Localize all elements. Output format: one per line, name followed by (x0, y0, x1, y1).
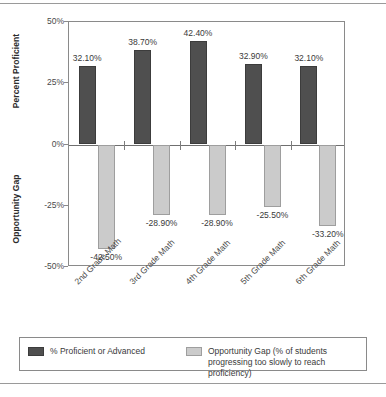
category-tick (180, 141, 181, 150)
y-tick-label: -50% (18, 261, 64, 271)
y-axis-title-top: Percent Proficient (11, 31, 21, 111)
page-rule-bottom (0, 383, 386, 384)
category-tick (235, 141, 236, 150)
bar-value-label: -25.50% (257, 210, 289, 220)
bar-value-label: 38.70% (128, 37, 157, 47)
legend-label-opportunity-gap: Opportunity Gap (% of students progressi… (208, 346, 366, 379)
bar-opportunity-gap (209, 145, 226, 216)
bar-value-label: -33.20% (312, 229, 344, 239)
bar-proficient (79, 66, 96, 145)
chart-legend: % Proficient or Advanced Opportunity Gap… (19, 337, 367, 371)
bar-proficient (245, 64, 262, 145)
y-tick-label: -25% (18, 200, 64, 210)
bar-value-label: 32.10% (73, 53, 102, 63)
category-tick (124, 141, 125, 150)
bar-proficient (190, 41, 207, 145)
legend-label-proficient: % Proficient or Advanced (50, 346, 145, 357)
y-tick-mark (64, 266, 68, 267)
y-tick-label: 0% (18, 139, 64, 149)
bar-proficient (134, 50, 151, 145)
category-tick (291, 141, 292, 150)
y-tick-label: 25% (18, 77, 64, 87)
bar-opportunity-gap (319, 145, 336, 226)
legend-item-opportunity-gap: Opportunity Gap (% of students progressi… (186, 346, 366, 379)
bar-opportunity-gap (153, 145, 170, 216)
bar-value-label: -28.90% (146, 218, 178, 228)
page-rule-top (0, 3, 386, 4)
legend-swatch-proficient (28, 347, 44, 356)
bar-opportunity-gap (264, 145, 281, 207)
plot-area: 32.10%-42.50%38.70%-28.90%42.40%-28.90%3… (68, 21, 345, 266)
y-tick-label: 50% (18, 16, 64, 26)
legend-item-proficient: % Proficient or Advanced (28, 346, 145, 357)
bar-value-label: 32.10% (294, 53, 323, 63)
bar-value-label: -28.90% (201, 218, 233, 228)
bar-opportunity-gap (98, 145, 115, 249)
bar-value-label: 42.40% (184, 28, 213, 38)
legend-swatch-opportunity-gap (186, 347, 202, 356)
chart-figure: Percent Proficient Opportunity Gap 50%25… (0, 8, 386, 378)
bar-value-label: 32.90% (239, 51, 268, 61)
bar-proficient (300, 66, 317, 145)
